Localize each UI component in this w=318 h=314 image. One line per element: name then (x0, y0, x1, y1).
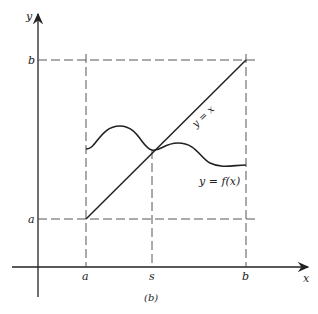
identity-line-label: y = x (189, 103, 216, 130)
y-tick-a: a (28, 213, 35, 226)
y-tick-b: b (28, 54, 35, 67)
y-axis-label: y (25, 10, 33, 23)
function-curve (86, 126, 246, 166)
x-tick-a: a (82, 270, 89, 283)
diagram-canvas: y x b a a s b y = x y = f(x) (b) (0, 0, 318, 314)
x-axis-label: x (303, 272, 310, 285)
fixed-point-diagram: y x b a a s b y = x y = f(x) (b) (0, 0, 318, 314)
x-tick-b: b (242, 270, 249, 283)
identity-line (86, 60, 246, 219)
function-curve-label: y = f(x) (198, 175, 240, 188)
figure-caption: (b) (144, 292, 158, 303)
x-tick-s: s (149, 270, 155, 283)
